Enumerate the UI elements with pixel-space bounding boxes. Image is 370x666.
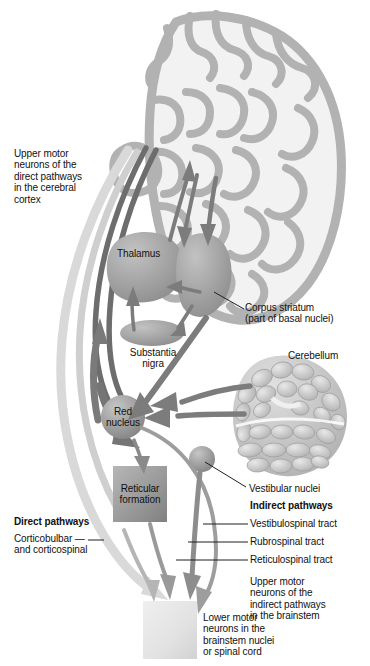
thalamus-shape bbox=[107, 232, 184, 302]
vestibulospinal-tract-path bbox=[192, 473, 200, 576]
label-corpus-striatum: Corpus striatum (part of basal nuclei) bbox=[245, 302, 333, 325]
lower-motor-neuron-box bbox=[143, 601, 197, 659]
label-reticular-formation: Reticular formation bbox=[113, 483, 167, 506]
label-reticulospinal-tract: Reticulospinal tract bbox=[250, 554, 332, 565]
label-rubrospinal-tract: Rubrospinal tract bbox=[250, 536, 324, 547]
cerebellum-to-rednucleus-shaft-1 bbox=[178, 414, 244, 416]
reticulospinal-tract-path bbox=[150, 524, 168, 582]
label-indirect-pathways-heading: Indirect pathways bbox=[250, 500, 333, 511]
cerebellum-group bbox=[233, 356, 348, 477]
label-vestibulospinal-tract: Vestibulospinal tract bbox=[250, 518, 337, 529]
label-upper-motor-direct: Upper motor neurons of the direct pathwa… bbox=[14, 148, 82, 205]
label-direct-pathways-heading: Direct pathways bbox=[14, 516, 89, 527]
label-thalamus: Thalamus bbox=[117, 248, 160, 259]
leader-vestibular-nuclei bbox=[205, 462, 246, 487]
anatomy-illustration bbox=[0, 0, 370, 666]
figure-canvas: Upper motor neurons of the direct pathwa… bbox=[0, 0, 370, 666]
label-vestibular-nuclei: Vestibular nuclei bbox=[249, 483, 320, 494]
label-cerebellum: Cerebellum bbox=[288, 350, 338, 361]
label-direct-pathways-detail: Corticobulbar — and corticospinal bbox=[14, 533, 87, 556]
label-red-nucleus: Red nucleus bbox=[98, 406, 148, 429]
label-substantia-nigra: Substantia nigra bbox=[122, 347, 184, 370]
label-lower-motor: Lower motor neurons in the brainstem nuc… bbox=[203, 612, 274, 658]
